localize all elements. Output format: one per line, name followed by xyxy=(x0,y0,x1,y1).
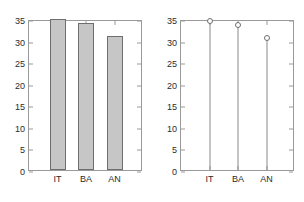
x-tick-mark-top xyxy=(114,21,115,25)
y-tick-mark xyxy=(29,64,33,65)
y-tick-label: 30 xyxy=(15,38,25,47)
y-tick-mark xyxy=(29,150,33,151)
y-tick-label: 5 xyxy=(172,146,177,155)
y-tick-mark-right xyxy=(289,172,293,173)
y-tick-label: 10 xyxy=(15,124,25,133)
x-tick-label: BA xyxy=(232,175,244,184)
stem-chart-plot-area: 05101520253035ITBAAN xyxy=(180,20,294,171)
stem-line-an xyxy=(266,36,267,170)
y-tick-mark xyxy=(181,150,185,151)
y-tick-label: 0 xyxy=(172,168,177,177)
y-tick-mark xyxy=(181,172,185,173)
y-tick-mark-right xyxy=(137,85,141,86)
bar-chart-plot-area: 05101520253035ITBAAN xyxy=(28,20,142,171)
y-tick-mark-right xyxy=(289,42,293,43)
y-tick-mark xyxy=(181,64,185,65)
stem-marker-ba xyxy=(235,22,241,28)
y-tick-label: 35 xyxy=(15,17,25,26)
y-tick-mark-right xyxy=(137,128,141,129)
y-tick-label: 5 xyxy=(20,146,25,155)
y-tick-label: 35 xyxy=(167,17,177,26)
x-tick-label: IT xyxy=(206,175,214,184)
bar-ba xyxy=(78,23,94,170)
y-tick-mark-right xyxy=(137,42,141,43)
y-tick-mark-right xyxy=(289,128,293,129)
y-tick-mark xyxy=(29,42,33,43)
y-tick-mark-right xyxy=(289,107,293,108)
y-tick-mark xyxy=(29,85,33,86)
bar-it xyxy=(50,19,66,170)
stem-marker-it xyxy=(207,18,213,24)
y-tick-mark xyxy=(181,128,185,129)
y-tick-mark xyxy=(181,107,185,108)
stem-chart-panel: 05101520253035ITBAAN xyxy=(152,0,304,202)
figure-canvas: 05101520253035ITBAAN 05101520253035ITBAA… xyxy=(0,0,304,202)
y-tick-mark-right xyxy=(289,21,293,22)
y-tick-label: 15 xyxy=(15,103,25,112)
y-tick-mark-right xyxy=(289,85,293,86)
y-tick-mark-right xyxy=(137,21,141,22)
y-tick-mark xyxy=(181,42,185,43)
bar-chart-panel: 05101520253035ITBAAN xyxy=(0,0,152,202)
stem-marker-an xyxy=(264,35,270,41)
y-tick-label: 20 xyxy=(15,81,25,90)
y-tick-label: 25 xyxy=(167,60,177,69)
y-tick-mark xyxy=(181,85,185,86)
y-tick-label: 30 xyxy=(167,38,177,47)
x-tick-label: IT xyxy=(54,175,62,184)
y-tick-mark xyxy=(29,128,33,129)
y-tick-mark xyxy=(29,107,33,108)
y-tick-mark-right xyxy=(137,172,141,173)
y-tick-mark-right xyxy=(137,150,141,151)
y-tick-label: 25 xyxy=(15,60,25,69)
stem-line-it xyxy=(209,19,210,170)
y-tick-mark xyxy=(181,21,185,22)
y-tick-mark xyxy=(29,172,33,173)
y-tick-mark xyxy=(29,21,33,22)
y-tick-label: 20 xyxy=(167,81,177,90)
stem-line-ba xyxy=(238,23,239,170)
y-tick-mark-right xyxy=(137,64,141,65)
y-tick-mark-right xyxy=(289,64,293,65)
y-tick-mark-right xyxy=(137,107,141,108)
bar-an xyxy=(107,36,123,170)
x-tick-label: AN xyxy=(260,175,273,184)
y-tick-label: 10 xyxy=(167,124,177,133)
y-tick-mark-right xyxy=(289,150,293,151)
x-tick-mark-top xyxy=(266,21,267,25)
y-tick-label: 0 xyxy=(20,168,25,177)
y-tick-label: 15 xyxy=(167,103,177,112)
x-tick-label: AN xyxy=(108,175,121,184)
x-tick-label: BA xyxy=(80,175,92,184)
